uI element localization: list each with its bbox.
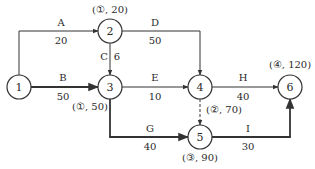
- svg-text:3: 3: [107, 81, 114, 94]
- edge-g-duration: 40: [144, 141, 157, 152]
- node-4: 4: [188, 75, 212, 99]
- edge-c-duration: 6: [114, 51, 120, 62]
- node-6: 6: [278, 75, 302, 99]
- node-5: 5: [188, 125, 212, 149]
- node-1: 1: [7, 75, 31, 99]
- network-diagram: A 20 B 50 C 6 D 50 E 10 G 40 H 40 I 30 1…: [0, 0, 315, 169]
- node-2: 2: [98, 19, 122, 43]
- svg-text:2: 2: [107, 25, 114, 38]
- edge-a-duration: 20: [55, 35, 68, 46]
- edge-d-name: D: [151, 17, 159, 28]
- edge-a-name: A: [56, 17, 65, 28]
- edge-h-duration: 40: [237, 91, 250, 102]
- annotation-node-2: (①, 20): [92, 4, 128, 15]
- annotation-node-6: (④, 120): [269, 59, 311, 70]
- svg-text:6: 6: [287, 81, 294, 94]
- edge-b-name: B: [59, 72, 66, 83]
- edge-b-duration: 50: [57, 91, 70, 102]
- edge-e-name: E: [151, 72, 158, 83]
- annotation-node-5: (③, 90): [182, 152, 218, 163]
- svg-text:4: 4: [197, 81, 204, 94]
- svg-text:1: 1: [16, 81, 23, 94]
- svg-text:5: 5: [197, 131, 204, 144]
- edge-i-duration: 30: [242, 141, 255, 152]
- annotation-node-4: (②, 70): [206, 104, 242, 115]
- edge-c-name: C: [100, 51, 108, 62]
- edge-e-duration: 10: [149, 91, 162, 102]
- edge-i-name: I: [246, 123, 250, 134]
- edge-h-name: H: [239, 72, 248, 83]
- edge-d-duration: 50: [149, 35, 162, 46]
- edge-g-name: G: [146, 123, 154, 134]
- node-3: 3: [98, 75, 122, 99]
- annotation-node-3: (①, 50): [72, 101, 108, 112]
